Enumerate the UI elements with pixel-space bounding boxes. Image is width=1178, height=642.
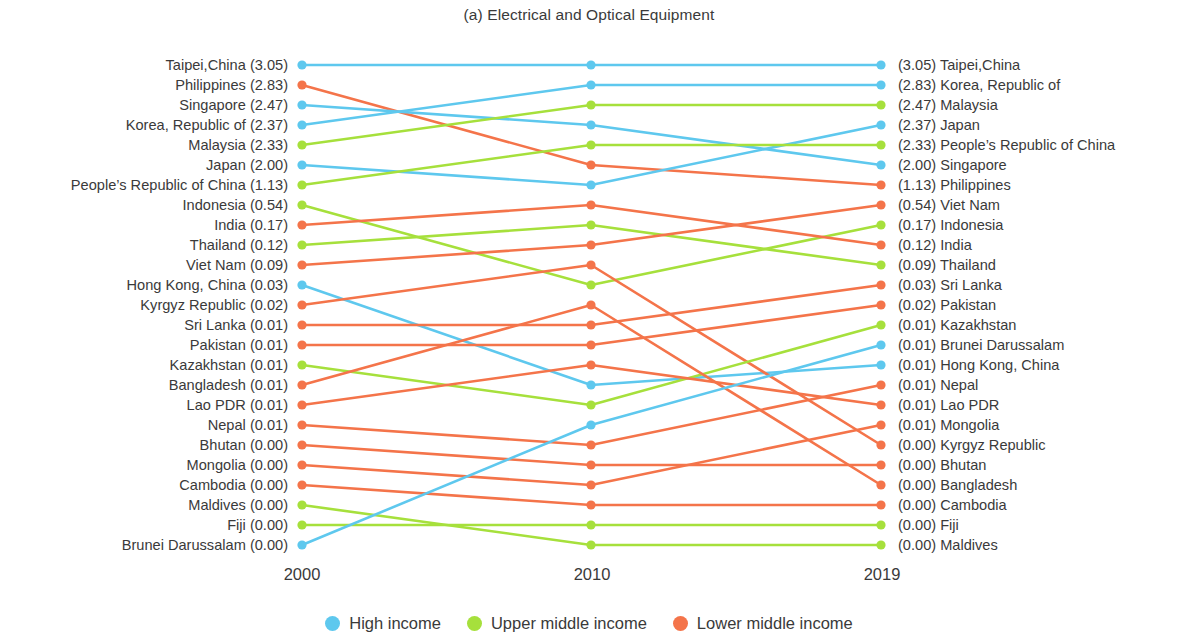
bump-node[interactable] — [297, 180, 306, 189]
bump-node[interactable] — [586, 60, 595, 69]
bump-node[interactable] — [297, 220, 306, 229]
bump-node[interactable] — [297, 480, 306, 489]
bump-node[interactable] — [297, 340, 306, 349]
bump-node[interactable] — [297, 440, 306, 449]
bump-node[interactable] — [586, 240, 595, 249]
country-value: (3.05) — [898, 57, 936, 73]
bump-node[interactable] — [876, 180, 885, 189]
bump-node[interactable] — [876, 80, 885, 89]
bump-node[interactable] — [297, 280, 306, 289]
bump-node[interactable] — [876, 400, 885, 409]
legend: High incomeUpper middle incomeLower midd… — [0, 614, 1178, 633]
bump-node[interactable] — [297, 520, 306, 529]
bump-node[interactable] — [297, 320, 306, 329]
bump-node[interactable] — [876, 300, 885, 309]
bump-node[interactable] — [297, 120, 306, 129]
bump-node[interactable] — [586, 480, 595, 489]
bump-node[interactable] — [586, 520, 595, 529]
legend-item-lower-middle-income[interactable]: Lower middle income — [673, 614, 853, 633]
country-value: (2.47) — [898, 97, 936, 113]
bump-line — [302, 265, 591, 305]
bump-node[interactable] — [586, 460, 595, 469]
country-name: Nepal — [940, 377, 978, 393]
bump-node[interactable] — [297, 140, 306, 149]
bump-node[interactable] — [876, 420, 885, 429]
country-value: (0.17) — [898, 217, 936, 233]
bump-node[interactable] — [586, 180, 595, 189]
bump-line — [302, 245, 591, 265]
right-row-label: (0.00) Bhutan — [898, 458, 986, 473]
bump-node[interactable] — [586, 120, 595, 129]
country-name: Indonesia — [183, 197, 246, 213]
left-row-label: Bangladesh (0.01) — [169, 378, 288, 393]
bump-node[interactable] — [586, 320, 595, 329]
bump-node[interactable] — [876, 280, 885, 289]
bump-node[interactable] — [586, 400, 595, 409]
bump-node[interactable] — [876, 120, 885, 129]
bump-node[interactable] — [876, 480, 885, 489]
bump-node[interactable] — [876, 320, 885, 329]
bump-node[interactable] — [297, 80, 306, 89]
bump-node[interactable] — [297, 360, 306, 369]
bump-node[interactable] — [876, 520, 885, 529]
country-value: (0.00) — [898, 497, 936, 513]
bump-node[interactable] — [297, 460, 306, 469]
country-value: (2.83) — [250, 77, 288, 93]
bump-node[interactable] — [586, 380, 595, 389]
bump-node[interactable] — [876, 220, 885, 229]
bump-node[interactable] — [586, 420, 595, 429]
bump-node[interactable] — [297, 160, 306, 169]
bump-node[interactable] — [876, 540, 885, 549]
bump-node[interactable] — [297, 240, 306, 249]
bump-node[interactable] — [586, 80, 595, 89]
bump-node[interactable] — [586, 360, 595, 369]
bump-node[interactable] — [586, 540, 595, 549]
bump-node[interactable] — [586, 500, 595, 509]
bump-node[interactable] — [876, 160, 885, 169]
bump-node[interactable] — [297, 300, 306, 309]
bump-node[interactable] — [297, 540, 306, 549]
bump-node[interactable] — [586, 340, 595, 349]
country-name: Maldives — [188, 497, 246, 513]
bump-node[interactable] — [297, 260, 306, 269]
bump-node[interactable] — [876, 500, 885, 509]
bump-node[interactable] — [586, 260, 595, 269]
bump-node[interactable] — [297, 500, 306, 509]
bump-node[interactable] — [876, 460, 885, 469]
bump-node[interactable] — [586, 160, 595, 169]
bump-node[interactable] — [586, 100, 595, 109]
country-name: Kyrgyz Republic — [940, 437, 1045, 453]
bump-node[interactable] — [876, 240, 885, 249]
bump-node[interactable] — [297, 380, 306, 389]
bump-node[interactable] — [586, 200, 595, 209]
bump-node[interactable] — [876, 380, 885, 389]
legend-item-high-income[interactable]: High income — [325, 614, 441, 633]
bump-node[interactable] — [297, 420, 306, 429]
bump-line — [302, 465, 591, 485]
bump-node[interactable] — [297, 200, 306, 209]
bump-node[interactable] — [297, 400, 306, 409]
left-row-label: Indonesia (0.54) — [183, 198, 288, 213]
bump-node[interactable] — [876, 440, 885, 449]
bump-node[interactable] — [876, 260, 885, 269]
bump-node[interactable] — [586, 220, 595, 229]
bump-node[interactable] — [586, 300, 595, 309]
legend-item-upper-middle-income[interactable]: Upper middle income — [467, 614, 647, 633]
bump-node[interactable] — [586, 440, 595, 449]
country-name: Singapore — [940, 157, 1007, 173]
country-name: Sri Lanka — [940, 277, 1002, 293]
bump-node[interactable] — [297, 100, 306, 109]
bump-node[interactable] — [876, 60, 885, 69]
country-name: Hong Kong, China — [940, 357, 1059, 373]
bump-node[interactable] — [586, 140, 595, 149]
bump-node[interactable] — [876, 200, 885, 209]
country-name: Thailand — [940, 257, 996, 273]
left-row-label: Taipei,China (3.05) — [165, 58, 288, 73]
bump-node[interactable] — [297, 60, 306, 69]
country-name: Viet Nam — [186, 257, 246, 273]
bump-node[interactable] — [876, 140, 885, 149]
bump-node[interactable] — [586, 280, 595, 289]
bump-node[interactable] — [876, 340, 885, 349]
bump-node[interactable] — [876, 100, 885, 109]
bump-node[interactable] — [876, 360, 885, 369]
